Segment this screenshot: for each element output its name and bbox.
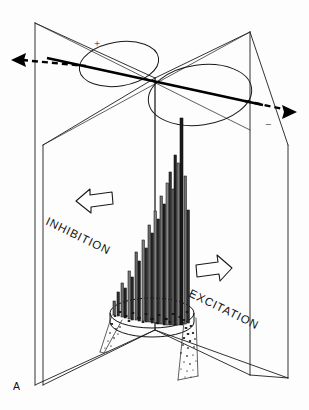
left-inhibitory-cone [100,315,122,353]
figure-panel: + − INHIBITION EXCITATION A [0,0,309,410]
plane-diagonal-upper-left [35,23,250,130]
spike-histogram-group [110,118,194,337]
negative-lobe [144,58,255,132]
figure-canvas: + − INHIBITION EXCITATION A [0,0,309,410]
block-arrow-right-icon [196,255,232,281]
minus-sign-label: − [265,118,271,130]
block-arrow-left-icon [76,189,113,213]
axis-dashed-left [22,60,86,66]
inhibition-label: INHIBITION [44,215,112,257]
positive-lobe [76,36,162,92]
panel-label: A [13,380,20,392]
plane-diagonal-upper-right [43,32,250,145]
inhibitory-surround-group [100,315,198,380]
arrowhead-left-icon [11,53,26,67]
arrowhead-right-icon [282,105,297,119]
spike-bars [113,118,189,325]
plus-sign-label: + [94,37,100,49]
